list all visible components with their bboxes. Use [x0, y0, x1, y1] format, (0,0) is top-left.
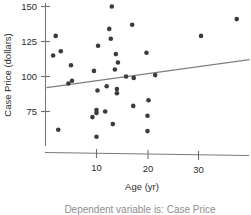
data-point: [103, 109, 108, 114]
x-tick-label-20: 20: [143, 163, 154, 174]
data-point: [131, 104, 136, 109]
data-point: [69, 63, 74, 68]
data-point: [90, 115, 95, 120]
caption-label: Dependent variable is: Case Price: [64, 204, 216, 215]
x-tick-label-10: 10: [91, 162, 102, 173]
data-point: [111, 122, 116, 127]
data-point: [131, 76, 136, 81]
data-point: [144, 50, 149, 55]
x-tick-label-30: 30: [193, 164, 204, 175]
data-point: [104, 84, 109, 89]
y-axis-tick-labels: 150 125 100 75: [21, 1, 37, 117]
x-axis-line: [45, 153, 249, 156]
data-point: [94, 134, 99, 139]
data-point: [130, 22, 135, 27]
data-points-layer: [51, 4, 239, 139]
data-point: [92, 69, 97, 74]
data-point: [146, 98, 151, 103]
data-point: [56, 127, 61, 132]
x-axis-title: Age (yr): [125, 181, 159, 192]
data-point: [107, 27, 112, 32]
data-point: [96, 43, 101, 48]
data-point: [113, 67, 118, 72]
x-axis: 10 20 30 Age (yr): [45, 149, 249, 192]
data-point: [53, 34, 58, 39]
regression-fit-line: [47, 60, 250, 88]
data-point: [51, 53, 56, 58]
data-point: [145, 113, 150, 118]
data-point: [199, 34, 204, 39]
data-point: [95, 88, 100, 93]
data-point: [115, 91, 120, 96]
x-axis-tick-labels: 10 20 30: [91, 162, 204, 175]
data-point: [114, 52, 119, 57]
data-point: [153, 73, 158, 78]
y-axis: 150 125 100 75 Case Price (dollars): [2, 1, 50, 146]
scatter-plot-canvas: 150 125 100 75 Case Price (dollars) 10 2…: [0, 0, 251, 215]
data-point: [59, 49, 64, 54]
data-point: [145, 129, 150, 134]
data-point: [108, 36, 113, 41]
data-point: [94, 111, 99, 116]
y-tick-label-125: 125: [21, 36, 37, 47]
data-point: [124, 74, 129, 79]
y-tick-label-75: 75: [26, 106, 37, 117]
y-tick-label-100: 100: [21, 71, 37, 82]
data-point: [115, 87, 120, 92]
scatterplot-figure: 150 125 100 75 Case Price (dollars) 10 2…: [0, 0, 251, 215]
data-point: [234, 17, 239, 22]
data-point: [70, 78, 75, 83]
data-point: [116, 60, 121, 65]
data-point: [110, 4, 115, 9]
y-tick-label-150: 150: [21, 1, 37, 12]
y-axis-title: Case Price (dollars): [2, 33, 13, 116]
